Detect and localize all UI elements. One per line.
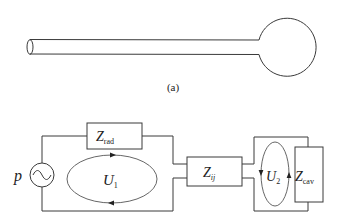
equivalent-circuit (30, 123, 323, 211)
arrow-up-icon (287, 172, 292, 178)
z-rad-label: Zrad (96, 129, 114, 146)
z-ij-label: Zij (203, 165, 216, 182)
arrow-down-icon (259, 170, 264, 176)
u1-label: U1 (103, 172, 118, 190)
source-label: p (13, 167, 22, 185)
wire-top-left (42, 136, 87, 163)
tube-opening (27, 40, 33, 55)
tube-bottom-edge (30, 54, 259, 55)
arrow-right-icon (110, 153, 116, 158)
spherical-cavity (259, 18, 316, 76)
figure-canvas: (a) p Zrad U1 Zij U2 Zcav (0, 0, 339, 217)
arrow-left-icon (108, 201, 114, 206)
u2-label: U2 (266, 169, 280, 186)
resonator-drawing (27, 18, 316, 76)
wire-top-right (142, 136, 187, 164)
tube-top-edge (30, 40, 259, 41)
subfigure-label: (a) (167, 81, 180, 94)
wire-right-top (242, 137, 308, 164)
ac-source-icon (30, 163, 54, 187)
z-cav-label: Zcav (295, 169, 314, 186)
